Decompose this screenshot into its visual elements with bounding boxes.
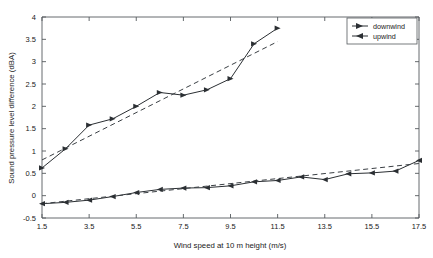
data-marker-upwind bbox=[275, 178, 281, 183]
data-markers-group bbox=[39, 26, 422, 207]
series-line-upwind bbox=[42, 160, 419, 203]
legend-label-downwind: downwind bbox=[373, 22, 405, 31]
series-line-downwind bbox=[42, 28, 278, 168]
data-marker-upwind bbox=[63, 200, 69, 205]
data-marker-upwind bbox=[157, 187, 163, 192]
x-tick-label: 1.5 bbox=[37, 222, 47, 231]
x-tick-label: 3.5 bbox=[84, 222, 94, 231]
y-tick-label: 1 bbox=[32, 147, 36, 156]
x-tick-label: 17.5 bbox=[412, 222, 427, 231]
data-marker-upwind bbox=[322, 177, 328, 182]
data-marker-upwind bbox=[110, 194, 116, 199]
data-marker-downwind bbox=[204, 87, 210, 92]
trend-line-upwind-trend bbox=[42, 164, 419, 204]
data-marker-downwind bbox=[110, 116, 116, 121]
data-series-group bbox=[42, 28, 419, 204]
trend-line-downwind-trend bbox=[42, 42, 278, 160]
x-tick-label: 13.5 bbox=[317, 222, 332, 231]
axis-box bbox=[42, 17, 419, 218]
chart-canvas: 1.53.55.57.59.511.513.515.517.5 -0.500.5… bbox=[0, 0, 433, 258]
data-marker-upwind bbox=[180, 185, 186, 190]
x-tick-label: 7.5 bbox=[178, 222, 188, 231]
data-marker-upwind bbox=[392, 169, 398, 174]
data-marker-downwind bbox=[180, 93, 186, 98]
data-marker-upwind bbox=[345, 171, 351, 176]
x-axis-label: Wind speed at 10 m height (m/s) bbox=[174, 241, 287, 250]
plot-frame bbox=[42, 17, 419, 218]
y-tick-label: -0.5 bbox=[23, 214, 36, 223]
y-tick-label: 2.5 bbox=[26, 80, 36, 89]
y-tick-label: 3.5 bbox=[26, 35, 36, 44]
x-tick-label: 9.5 bbox=[225, 222, 235, 231]
y-tick-label: 1.5 bbox=[26, 124, 36, 133]
legend-label-upwind: upwind bbox=[373, 32, 396, 41]
data-marker-upwind bbox=[251, 179, 257, 184]
data-marker-downwind bbox=[275, 26, 281, 31]
data-marker-downwind bbox=[86, 122, 92, 127]
data-marker-downwind bbox=[133, 104, 139, 109]
data-marker-upwind bbox=[369, 170, 375, 175]
data-marker-downwind bbox=[157, 90, 163, 95]
y-axis-label: Sound pressure level difference (dBA) bbox=[7, 52, 16, 184]
chart-legend[interactable]: downwind upwind bbox=[347, 18, 417, 44]
x-tick-label: 15.5 bbox=[365, 222, 380, 231]
x-tick-label: 5.5 bbox=[131, 222, 141, 231]
y-tick-label: 0 bbox=[32, 191, 36, 200]
y-tick-label: 2 bbox=[32, 102, 36, 111]
data-marker-downwind bbox=[228, 76, 234, 81]
y-tick-label: 4 bbox=[32, 13, 36, 22]
x-tick-label: 11.5 bbox=[271, 222, 285, 231]
y-tick-label: 0.5 bbox=[26, 169, 36, 178]
data-marker-upwind bbox=[133, 190, 139, 195]
data-marker-upwind bbox=[298, 174, 304, 179]
y-tick-label: 3 bbox=[32, 57, 36, 66]
chart-figure: 1.53.55.57.59.511.513.515.517.5 -0.500.5… bbox=[0, 0, 433, 258]
